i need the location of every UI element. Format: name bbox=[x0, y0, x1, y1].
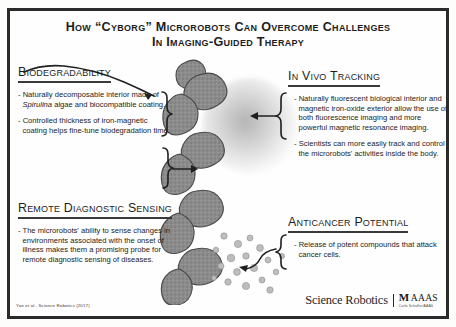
released-particles bbox=[212, 233, 285, 293]
section-heading: Remote Diagnostic Sensing bbox=[18, 201, 172, 219]
bullet-item: - Naturally decomposable interior made o… bbox=[18, 90, 170, 109]
bullet-item: - Scientists can more easily track and c… bbox=[294, 139, 448, 158]
bullet-item: - Naturally fluorescent biological inter… bbox=[294, 94, 448, 132]
title-line-1: How “Cyborg” Microrobots Can Overcome Ch… bbox=[66, 20, 391, 34]
aaas-name: AAAS bbox=[411, 293, 438, 303]
page-title: How “Cyborg” Microrobots Can Overcome Ch… bbox=[40, 20, 416, 50]
footer-logos: Science Robotics M AAAS Carla Schaffer/A… bbox=[305, 292, 438, 308]
bullet-item: - Controlled thickness of iron-magnetic … bbox=[18, 116, 170, 135]
bullet-item: - The microrobots' ability to sense chan… bbox=[18, 226, 184, 264]
section-in-vivo-tracking: In Vivo Tracking - Naturally fluorescent… bbox=[288, 66, 448, 166]
section-bullets: - Release of potent compounds that attac… bbox=[294, 240, 448, 259]
section-heading: Biodegradability bbox=[18, 65, 111, 83]
section-biodegradability: Biodegradability - Naturally decomposabl… bbox=[18, 62, 170, 142]
section-anticancer-potential: Anticancer Potential - Release of potent… bbox=[288, 212, 448, 266]
bullet-item: - Release of potent compounds that attac… bbox=[294, 240, 448, 259]
section-bullets: - Naturally decomposable interior made o… bbox=[18, 90, 170, 135]
title-line-2: In Imaging-Guided Therapy bbox=[40, 35, 416, 50]
section-bullets: - The microrobots' ability to sense chan… bbox=[18, 226, 184, 264]
section-bullets: - Naturally fluorescent biological inter… bbox=[294, 94, 448, 159]
aaas-logo: M AAAS Carla Schaffer/AAAS bbox=[399, 292, 438, 308]
science-robotics-logo: Science Robotics bbox=[305, 293, 387, 308]
aaas-logo-row: M AAAS bbox=[399, 292, 438, 303]
infographic-poster: How “Cyborg” Microrobots Can Overcome Ch… bbox=[0, 0, 456, 327]
logo-divider bbox=[393, 294, 394, 307]
aaas-tagline: Carla Schaffer/AAAS bbox=[399, 304, 434, 308]
section-heading: In Vivo Tracking bbox=[288, 69, 380, 87]
section-heading: Anticancer Potential bbox=[288, 215, 408, 233]
section-remote-diagnostic-sensing: Remote Diagnostic Sensing - The microrob… bbox=[18, 198, 184, 271]
source-credit: Yan et al., Science Robotics (2017) bbox=[16, 303, 90, 308]
aaas-mark-icon: M bbox=[399, 292, 409, 303]
